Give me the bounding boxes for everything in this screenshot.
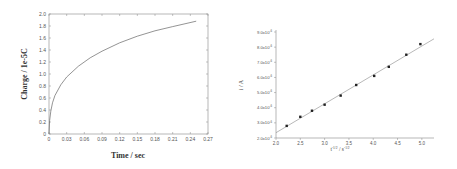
y-tick-label: 0 bbox=[43, 131, 46, 137]
x-tick-label: 2.5 bbox=[297, 141, 304, 146]
x-tick-label: 5.0 bbox=[419, 141, 426, 146]
y-tick-label: 8.0x10-6 bbox=[257, 44, 273, 50]
y-axis-title: Charge / 1e-5C bbox=[20, 48, 29, 100]
y-tick-label: 5.0x10-6 bbox=[257, 89, 273, 95]
x-tick-label: 0.09 bbox=[97, 136, 107, 142]
y-tick-label: 0.6 bbox=[39, 95, 46, 101]
data-markers bbox=[285, 43, 421, 127]
x-tick-label: 0 bbox=[48, 136, 51, 142]
y-tick-label: 0.2 bbox=[39, 119, 46, 125]
x-tick-label: 0.15 bbox=[132, 136, 142, 142]
y-tick-label: 1.2 bbox=[39, 59, 46, 65]
linear-fit-line bbox=[276, 39, 434, 133]
x-tick-label: 0.03 bbox=[62, 136, 72, 142]
y-tick-label: 1.6 bbox=[39, 35, 46, 41]
charge-curve bbox=[49, 21, 196, 134]
y-tick-label: 7.0x10-6 bbox=[257, 59, 273, 65]
x-tick-label: 0.18 bbox=[150, 136, 160, 142]
y-tick-label: 3.0x10-6 bbox=[257, 120, 273, 126]
x-tick-label: 3.0 bbox=[321, 141, 328, 146]
y-tick-label: 2.0 bbox=[39, 11, 46, 17]
plot-frame bbox=[49, 14, 208, 134]
x-tick-label: 0.24 bbox=[185, 136, 195, 142]
x-tick-label: 2.0 bbox=[273, 141, 280, 146]
data-point bbox=[405, 54, 407, 56]
y-tick-label: 9.0x10-6 bbox=[257, 29, 273, 35]
x-tick-label: 0.12 bbox=[115, 136, 125, 142]
data-point bbox=[355, 84, 357, 86]
figure: 00.20.40.60.81.01.21.41.61.82.0 00.030.0… bbox=[0, 0, 457, 169]
x-tick-label: 0.06 bbox=[79, 136, 89, 142]
data-point bbox=[311, 110, 313, 112]
y-tick-label: 0.4 bbox=[39, 107, 46, 113]
x-tick-label: 4.5 bbox=[394, 141, 401, 146]
x-tick-label: 4.0 bbox=[370, 141, 377, 146]
y-tick-label: 1.4 bbox=[39, 47, 46, 53]
data-point bbox=[299, 116, 301, 118]
y-tick-label: 4.0x10-6 bbox=[257, 104, 273, 110]
data-point bbox=[388, 66, 390, 68]
y-tick-label: 0.8 bbox=[39, 83, 46, 89]
data-point bbox=[323, 103, 325, 105]
x-tick-label: 0.27 bbox=[203, 136, 213, 142]
x-axis-ticks: 00.030.060.090.120.150.180.210.240.27 bbox=[48, 14, 213, 142]
data-point bbox=[339, 94, 341, 96]
y-axis-title: i / A bbox=[238, 79, 244, 90]
y-axis-ticks: 2.0x10-63.0x10-64.0x10-65.0x10-66.0x10-6… bbox=[257, 29, 276, 141]
x-axis-title: Time / sec bbox=[111, 151, 146, 160]
x-axis-title: t-1/2 / s-1/2 bbox=[330, 146, 349, 152]
data-point bbox=[285, 125, 287, 127]
y-tick-label: 2.0x10-6 bbox=[257, 135, 273, 141]
x-tick-label: 0.21 bbox=[168, 136, 178, 142]
charge-vs-time-chart: 00.20.40.60.81.01.21.41.61.82.0 00.030.0… bbox=[20, 11, 213, 160]
y-axis-ticks: 00.20.40.60.81.01.21.41.61.82.0 bbox=[39, 11, 208, 137]
current-vs-inverse-sqrt-time-chart: 2.0x10-63.0x10-64.0x10-65.0x10-66.0x10-6… bbox=[238, 29, 434, 152]
y-tick-label: 1.0 bbox=[39, 71, 46, 77]
x-axis-ticks: 2.02.53.03.54.04.55.0 bbox=[273, 138, 426, 146]
data-point bbox=[419, 43, 421, 45]
data-point bbox=[373, 75, 375, 77]
y-tick-label: 1.8 bbox=[39, 23, 46, 29]
y-tick-label: 6.0x10-6 bbox=[257, 74, 273, 80]
